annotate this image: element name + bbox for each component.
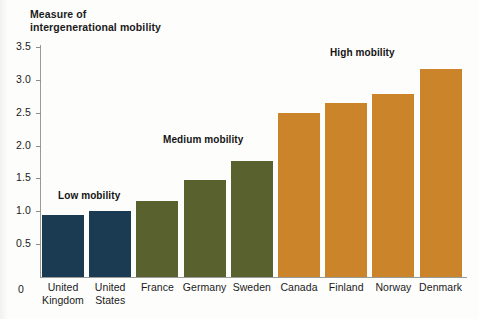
- annotation-high-mobility: High mobility: [330, 47, 395, 58]
- bar-france[interactable]: [136, 201, 178, 277]
- category-label-denmark: Denmark: [416, 281, 466, 294]
- y-axis-tick: 2.0: [36, 146, 41, 147]
- y-axis-zero-label: 0: [18, 283, 24, 295]
- category-label-finland: Finland: [321, 281, 371, 294]
- y-axis-tick: 1.0: [36, 211, 41, 212]
- bar-canada[interactable]: [278, 113, 320, 277]
- category-label-canada: Canada: [274, 281, 324, 294]
- category-label-line: Norway: [368, 281, 418, 294]
- category-label-united-states: UnitedStates: [85, 281, 135, 307]
- category-label-norway: Norway: [368, 281, 418, 294]
- category-label-line: Germany: [180, 281, 230, 294]
- y-axis-tick: 3.0: [36, 80, 41, 81]
- category-label-line: States: [85, 294, 135, 307]
- bar-united-states[interactable]: [89, 211, 131, 277]
- category-label-line: United: [38, 281, 88, 294]
- bar-sweden[interactable]: [231, 161, 273, 277]
- y-axis-tick: 1.5: [36, 178, 41, 179]
- plot-area: 3.53.02.52.01.51.00.5 UnitedKingdomUnite…: [0, 0, 479, 319]
- bar-norway[interactable]: [372, 94, 414, 277]
- bar-denmark[interactable]: [420, 69, 462, 277]
- y-axis-tick-label: 3.0: [16, 73, 31, 85]
- y-axis-tick-label: 0.5: [16, 237, 31, 249]
- y-axis-tick-label: 2.0: [16, 139, 31, 151]
- x-axis-line: [40, 277, 467, 278]
- category-label-line: Kingdom: [38, 294, 88, 307]
- annotation-low-mobility: Low mobility: [58, 190, 120, 201]
- y-axis-tick-label: 2.5: [16, 106, 31, 118]
- annotation-medium-mobility: Medium mobility: [163, 134, 243, 145]
- category-label-line: United: [85, 281, 135, 294]
- bar-united-kingdom[interactable]: [42, 215, 84, 277]
- y-axis-tick: 0.5: [36, 244, 41, 245]
- bar-germany[interactable]: [184, 180, 226, 277]
- category-label-line: Denmark: [416, 281, 466, 294]
- chart-page: Measure of intergenerational mobility 3.…: [0, 0, 479, 319]
- category-label-sweden: Sweden: [227, 281, 277, 294]
- bar-finland[interactable]: [325, 103, 367, 277]
- y-axis-tick-label: 1.5: [16, 171, 31, 183]
- category-label-line: France: [132, 281, 182, 294]
- y-axis-tick-label: 3.5: [16, 40, 31, 52]
- category-label-united-kingdom: UnitedKingdom: [38, 281, 88, 307]
- y-axis-tick-label: 1.0: [16, 204, 31, 216]
- category-label-line: Sweden: [227, 281, 277, 294]
- category-label-line: Finland: [321, 281, 371, 294]
- category-label-germany: Germany: [180, 281, 230, 294]
- category-label-france: France: [132, 281, 182, 294]
- category-label-line: Canada: [274, 281, 324, 294]
- y-axis-tick: 3.5: [36, 47, 41, 48]
- y-axis-tick: 2.5: [36, 113, 41, 114]
